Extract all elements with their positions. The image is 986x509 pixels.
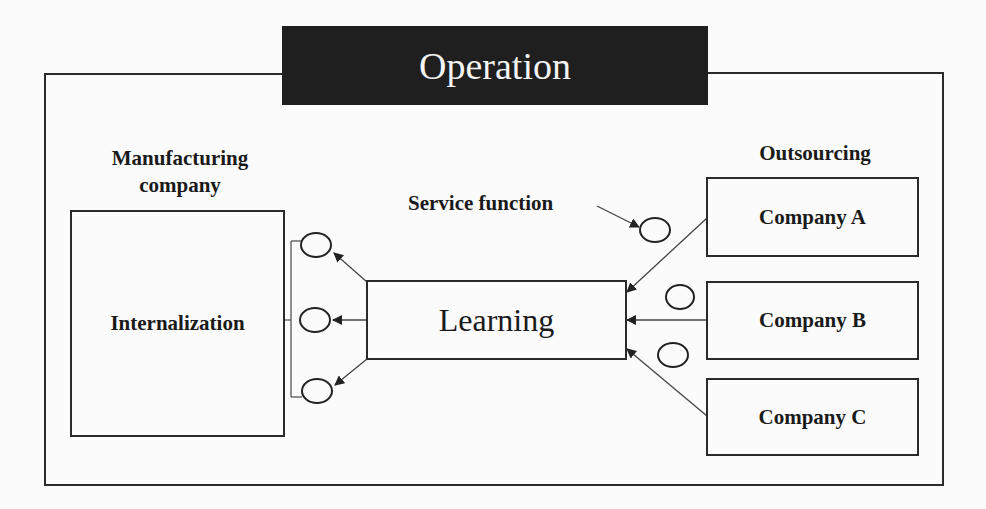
internalization-box: Internalization (70, 210, 285, 437)
circle-icon (658, 343, 688, 367)
manufacturing-company-heading: Manufacturing company (70, 145, 290, 199)
company-c-box: Company C (706, 378, 919, 456)
circle-icon (666, 285, 694, 309)
company-c-label: Company C (759, 405, 867, 430)
company-b-box: Company B (706, 281, 919, 360)
outsourcing-heading: Outsourcing (740, 140, 890, 167)
company-a-box: Company A (706, 177, 919, 257)
operation-banner: Operation (282, 26, 708, 105)
circle-icon (300, 308, 330, 332)
learning-label: Learning (439, 302, 555, 339)
circle-icon (301, 233, 331, 257)
internalization-label: Internalization (110, 311, 244, 336)
service-function-label: Service function (408, 190, 553, 217)
outsourced-function-circles (640, 218, 694, 367)
heading-line-1: Manufacturing (70, 145, 290, 172)
operation-title: Operation (419, 44, 571, 88)
company-b-label: Company B (759, 308, 866, 333)
internalized-function-circles (300, 233, 332, 403)
learning-box: Learning (366, 280, 627, 360)
companies-to-learning-arrows (627, 218, 707, 416)
circle-icon (302, 379, 332, 403)
service-function-circle-icon (640, 218, 670, 242)
learning-to-internalization-arrows (333, 253, 367, 385)
company-a-label: Company A (759, 205, 866, 230)
heading-line-2: company (70, 172, 290, 199)
service-function-pointer (597, 206, 639, 227)
